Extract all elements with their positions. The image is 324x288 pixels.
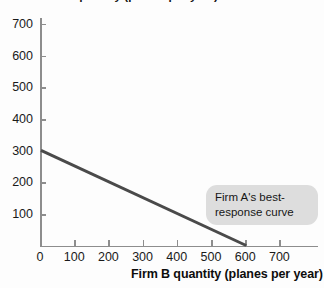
y-tick-label-600: 600 [12, 49, 33, 63]
y-tick-200 [40, 182, 46, 184]
y-tick-400 [40, 119, 46, 121]
y-tick-600 [40, 56, 46, 58]
y-tick-700 [40, 24, 46, 26]
callout-line-2: response curve [215, 205, 310, 220]
y-tick-500 [40, 87, 46, 89]
x-axis-title: Firm B quantity (planes per year) [131, 267, 323, 281]
x-tick-label-100: 100 [64, 250, 85, 264]
x-tick-label-600: 600 [235, 250, 256, 264]
x-tick-500 [211, 240, 213, 246]
x-tick-label-300: 300 [132, 250, 153, 264]
x-axis-line [40, 246, 318, 248]
x-tick-100 [74, 240, 76, 246]
y-tick-label-200: 200 [12, 175, 33, 189]
y-tick-100 [40, 214, 46, 216]
x-tick-600 [245, 240, 247, 246]
x-tick-label-400: 400 [166, 250, 187, 264]
x-tick-label-700: 700 [269, 250, 290, 264]
x-tick-300 [143, 240, 145, 246]
y-tick-label-500: 500 [12, 80, 33, 94]
chart-figure: Firm A quantity (planes per year) 700 60… [0, 0, 324, 288]
x-tick-label-0: 0 [37, 250, 44, 264]
y-axis-line [40, 18, 42, 247]
y-tick-label-100: 100 [12, 207, 33, 221]
y-tick-300 [40, 151, 46, 153]
best-response-callout: Firm A's best- response curve [206, 185, 318, 225]
x-tick-200 [108, 240, 110, 246]
callout-line-1: Firm A's best- [215, 190, 310, 205]
y-axis-title: Firm A quantity (planes per year) [36, 0, 218, 2]
x-tick-label-200: 200 [98, 250, 119, 264]
y-tick-label-300: 300 [12, 144, 33, 158]
x-tick-700 [279, 240, 281, 246]
y-tick-label-400: 400 [12, 112, 33, 126]
x-tick-label-500: 500 [201, 250, 222, 264]
x-tick-400 [177, 240, 179, 246]
y-tick-label-700: 700 [12, 17, 33, 31]
